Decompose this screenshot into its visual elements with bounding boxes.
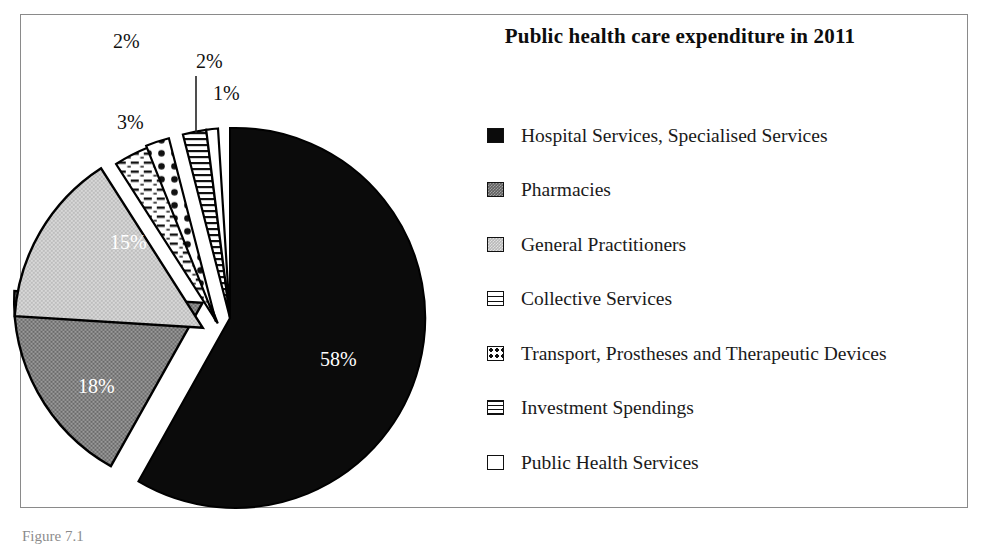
legend-label-public-health-services: Public Health Services xyxy=(521,453,699,473)
legend-swatch-icon-pharmacies xyxy=(487,182,504,197)
pie-label-investment: 2% xyxy=(196,50,223,73)
legend-label-pharmacies: Pharmacies xyxy=(521,180,611,200)
pie-label-pharmacies: 18% xyxy=(78,375,115,398)
legend-item-hospital[interactable]: Hospital Services, Specialised Services xyxy=(487,108,957,163)
legend-item-collective-services[interactable]: Collective Services xyxy=(487,272,957,327)
legend: Hospital Services, Specialised Services … xyxy=(487,108,957,490)
legend-swatch-icon-hospital xyxy=(487,128,504,143)
legend-label-hospital: Hospital Services, Specialised Services xyxy=(521,126,828,146)
legend-swatch-icon-collective-services xyxy=(487,291,504,306)
chart-title: Public health care expenditure in 2011 xyxy=(430,24,930,49)
pie-label-general-practitioners: 15% xyxy=(110,231,147,254)
figure-caption: Figure 7.1 xyxy=(22,528,84,544)
legend-label-collective-services: Collective Services xyxy=(521,289,672,309)
legend-swatch-icon-general-practitioners xyxy=(487,237,504,252)
pie-label-collective: 3% xyxy=(117,111,144,134)
legend-item-transport[interactable]: Transport, Prostheses and Therapeutic De… xyxy=(487,326,957,381)
legend-item-general-practitioners[interactable]: General Practitioners xyxy=(487,217,957,272)
legend-label-general-practitioners: General Practitioners xyxy=(521,235,686,255)
legend-item-pharmacies[interactable]: Pharmacies xyxy=(487,163,957,218)
legend-item-investment-spendings[interactable]: Investment Spendings xyxy=(487,381,957,436)
legend-item-public-health-services[interactable]: Public Health Services xyxy=(487,435,957,490)
legend-swatch-icon-public-health-services xyxy=(487,455,504,470)
legend-swatch-icon-transport xyxy=(487,346,504,361)
pie-svg xyxy=(0,0,470,520)
pie-chart xyxy=(0,0,470,520)
legend-swatch-icon-investment-spendings xyxy=(487,400,504,415)
pie-label-transport: 2% xyxy=(113,30,140,53)
legend-label-transport: Transport, Prostheses and Therapeutic De… xyxy=(521,344,887,364)
pie-label-public-health: 1% xyxy=(213,82,240,105)
legend-label-investment-spendings: Investment Spendings xyxy=(521,398,694,418)
pie-label-hospital: 58% xyxy=(320,348,357,371)
